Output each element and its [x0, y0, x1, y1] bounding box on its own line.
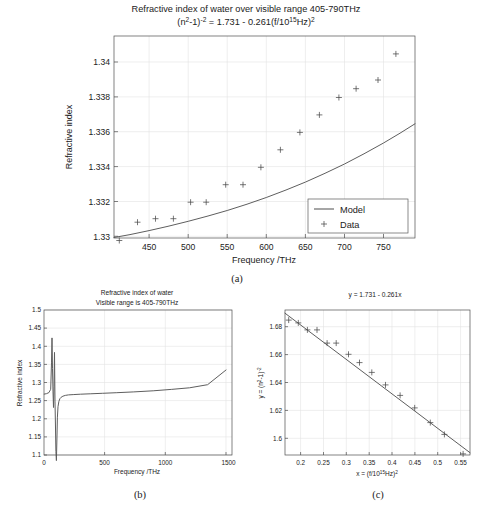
- x-tick-label: 0.3: [342, 459, 351, 466]
- y-tick-label: 1.25: [29, 397, 42, 404]
- panel-c-title: y = 1.731 - 0.261x: [349, 291, 403, 299]
- panel-b-ylabel: Refractive index: [16, 359, 23, 406]
- x-tick-label: 0.25: [317, 459, 330, 466]
- x-tick-label: 600: [259, 242, 274, 252]
- panel-b-xlabel: Frequency /THz: [114, 468, 160, 476]
- x-tick-label: 0.35: [363, 459, 376, 466]
- panel-c-xlabel: x = (f/1015Hz)2: [356, 470, 398, 479]
- legend-data-label: Data: [340, 220, 360, 230]
- y-tick-label: 1.68: [270, 323, 283, 330]
- y-tick-label: 1.332: [88, 197, 110, 207]
- x-tick-label: 450: [142, 242, 157, 252]
- y-tick-label: 1.62: [270, 407, 283, 414]
- panel-c-caption: (c): [372, 489, 384, 501]
- x-tick-label: 700: [337, 242, 352, 252]
- y-tick-label: 1.45: [29, 324, 42, 331]
- panel-a-caption: (a): [231, 273, 243, 285]
- y-tick-label: 1.2: [32, 415, 41, 422]
- y-tick-label: 1.15: [29, 433, 42, 440]
- panel-b-title-line1: Refractive index of water: [101, 289, 174, 296]
- scientific-figure: Refractive index of water over visible r…: [0, 0, 492, 523]
- panel-a-ylabel: Refractive index: [64, 104, 74, 169]
- panel-a-legend: Model Data: [308, 199, 408, 233]
- y-tick-label: 1.336: [88, 127, 110, 137]
- x-tick-label: 750: [376, 242, 391, 252]
- y-tick-label: 1.66: [270, 351, 283, 358]
- y-tick-label: 1.34: [93, 57, 110, 67]
- x-tick-label: 500: [99, 459, 110, 466]
- x-tick-label: 0.2: [296, 459, 305, 466]
- x-tick-label: 550: [220, 242, 235, 252]
- y-tick-label: 1.338: [88, 92, 110, 102]
- x-tick-label: 0: [42, 459, 46, 466]
- y-tick-label: 1.1: [32, 451, 41, 458]
- panel-a-xlabel: Frequency /THz: [232, 255, 297, 265]
- y-tick-label: 1.33: [93, 232, 110, 242]
- x-tick-label: 1500: [221, 459, 236, 466]
- legend-model-label: Model: [340, 205, 365, 215]
- panel-b-caption: (b): [134, 489, 147, 501]
- y-tick-label: 1.3: [32, 379, 41, 386]
- panel-a-title-line1: Refractive index of water over visible r…: [132, 4, 361, 14]
- y-tick-label: 1.334: [88, 162, 110, 172]
- y-tick-label: 1.6: [273, 435, 282, 442]
- figure-container: Refractive index of water over visible r…: [0, 0, 492, 523]
- panel-b-title-line2: Visible range is 405-790THz: [96, 299, 179, 307]
- y-tick-label: 1.5: [32, 306, 41, 313]
- x-tick-label: 500: [181, 242, 196, 252]
- y-tick-label: 1.35: [29, 361, 42, 368]
- x-tick-label: 650: [298, 242, 313, 252]
- y-tick-label: 1.64: [270, 379, 283, 386]
- y-tick-label: 1.4: [32, 343, 41, 350]
- x-tick-label: 0.45: [409, 459, 422, 466]
- x-tick-label: 0.5: [433, 459, 442, 466]
- x-tick-label: 1000: [158, 459, 173, 466]
- x-tick-label: 0.4: [388, 459, 397, 466]
- x-tick-label: 0.55: [454, 459, 467, 466]
- panel-c-ylabel: y = (n2-1)-2: [257, 367, 266, 399]
